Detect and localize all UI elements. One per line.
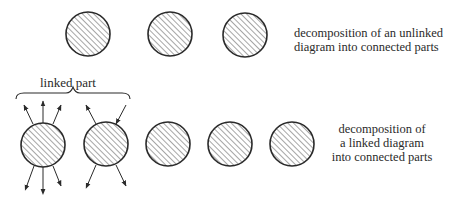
linked-caption: decomposition of a linked diagram into c… — [318, 122, 446, 164]
linked-caption-line-1: decomposition of — [318, 122, 446, 136]
unlinked-circle-3 — [223, 13, 267, 57]
unlinked-circle-2 — [148, 12, 192, 56]
linked-circle-1 — [21, 123, 65, 167]
linked-part-label: linked part — [40, 75, 96, 91]
unlinked-circle-1 — [66, 12, 110, 56]
linked-caption-line-3: into connected parts — [318, 150, 446, 164]
top-row-circles — [66, 12, 267, 57]
linked-circle-2 — [84, 122, 128, 166]
unlinked-caption: decomposition of an unlinked diagram int… — [294, 26, 443, 54]
unlinked-caption-line-2: diagram into connected parts — [294, 40, 443, 54]
linked-circle-4 — [208, 122, 252, 166]
linked-circle-3 — [146, 122, 190, 166]
bottom-row-circles — [21, 122, 314, 167]
unlinked-caption-line-1: decomposition of an unlinked — [294, 26, 443, 40]
linked-caption-line-2: a linked diagram — [318, 136, 446, 150]
linked-circle-5 — [270, 122, 314, 166]
